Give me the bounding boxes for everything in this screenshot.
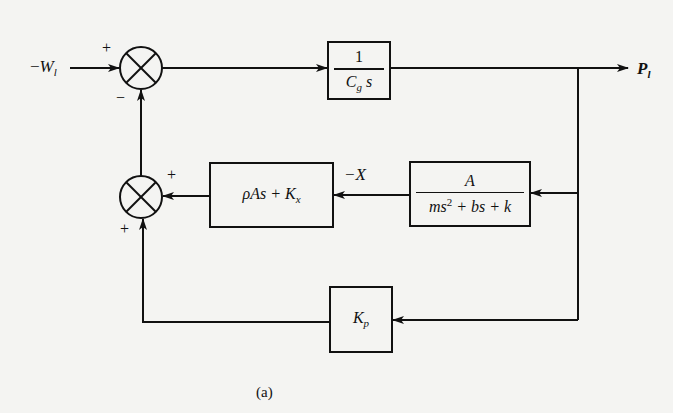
sum-bottom-sign-bottom: + bbox=[120, 221, 129, 237]
output-label: Pl bbox=[637, 60, 650, 80]
block-flow-gain-expr: ρAs + Kx bbox=[210, 163, 333, 227]
summing-junction-top bbox=[120, 47, 162, 89]
sum-top-sign-left: + bbox=[102, 40, 111, 56]
block-pressure-gain-expr: Kp bbox=[330, 287, 392, 352]
block-mechanical-expr: A ms2 + bs + k bbox=[410, 162, 530, 226]
sum-top-sign-bottom: − bbox=[116, 90, 125, 106]
summing-junction-bottom bbox=[120, 176, 162, 218]
figure-caption: (a) bbox=[256, 384, 273, 401]
sum-bottom-sign-right: + bbox=[167, 167, 176, 183]
block-compliance-expr: 1 Cg s bbox=[328, 42, 390, 99]
signal-neg-x-label: −X bbox=[344, 166, 366, 183]
input-label: −Wl bbox=[30, 58, 57, 78]
